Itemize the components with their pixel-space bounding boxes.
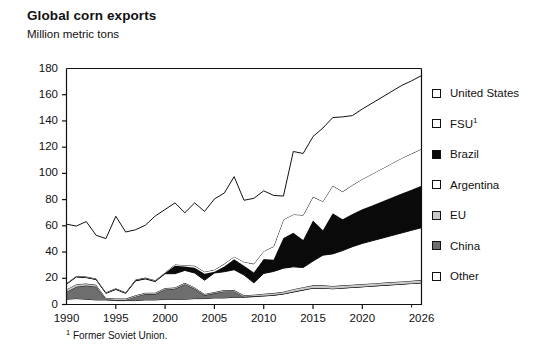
chart-legend: United StatesFSU1BrazilArgentinaEUChinaO… [432,78,519,292]
y-tick-label: 120 [22,141,58,153]
legend-item-other[interactable]: Other [432,261,519,292]
legend-item-china[interactable]: China [432,231,519,262]
legend-label: Other [450,270,479,282]
legend-swatch-icon [432,89,441,98]
legend-item-eu[interactable]: EU [432,200,519,231]
legend-label: Brazil [450,148,479,160]
y-tick-label: 60 [22,220,58,232]
legend-label: Argentina [450,179,499,191]
legend-swatch-icon [432,272,441,281]
legend-item-argentina[interactable]: Argentina [432,170,519,201]
y-tick-label: 20 [22,272,58,284]
legend-swatch-icon [432,180,441,189]
chart-root: Global corn exports Million metric tons … [0,0,560,363]
y-tick-label: 140 [22,115,58,127]
x-tick-label: 2005 [191,313,237,325]
footnote-text: Former Soviet Union. [73,330,167,341]
x-tick-label: 2020 [339,313,385,325]
footnote: 1 Former Soviet Union. [66,330,167,341]
y-tick-label: 160 [22,89,58,101]
footnote-marker: 1 [66,328,70,337]
legend-swatch-icon [432,241,441,250]
legend-swatch-icon [432,119,441,128]
legend-item-fsu[interactable]: FSU1 [432,109,519,140]
y-tick-label: 100 [22,167,58,179]
legend-swatch-icon [432,211,441,220]
x-tick-label: 1995 [93,313,139,325]
legend-label: FSU1 [450,118,477,130]
x-tick-label: 2026 [399,313,445,325]
x-tick-label: 1990 [44,313,90,325]
y-tick-label: 40 [22,246,58,258]
x-tick-label: 2010 [241,313,287,325]
x-tick-label: 2000 [142,313,188,325]
y-tick-label: 0 [22,299,58,311]
legend-footnote-marker: 1 [473,116,477,125]
legend-item-united-states[interactable]: United States [432,78,519,109]
legend-swatch-icon [432,150,441,159]
legend-label: EU [450,209,466,221]
legend-label: China [450,240,480,252]
x-tick-label: 2015 [290,313,336,325]
y-tick-label: 180 [22,63,58,75]
y-tick-label: 80 [22,194,58,206]
legend-label: United States [450,87,519,99]
legend-item-brazil[interactable]: Brazil [432,139,519,170]
